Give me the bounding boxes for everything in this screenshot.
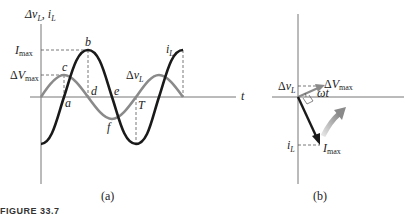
- point-T: T: [138, 98, 146, 112]
- voltage-curve-label: ΔvL: [126, 68, 144, 84]
- y-axis-label: ΔvL, iL: [24, 7, 56, 23]
- rotation-direction-icon: [323, 107, 346, 136]
- t-axis-label: t: [241, 89, 245, 103]
- voltage-projection-label: ΔvL: [278, 79, 296, 95]
- caption-a: (a): [101, 189, 114, 203]
- point-b: b: [85, 35, 91, 49]
- point-f: f: [107, 120, 112, 134]
- point-e: e: [114, 84, 120, 98]
- caption-b: (b): [313, 189, 327, 203]
- current-projection-label: iL: [287, 138, 295, 154]
- point-c: c: [62, 60, 68, 74]
- point-a: a: [65, 96, 71, 110]
- figure-caption: FIGURE 33.7: [0, 206, 60, 214]
- current-phasor-label: Imax: [322, 141, 341, 156]
- current-curve-label: iL: [166, 42, 174, 58]
- panel-b-axes: [272, 14, 404, 184]
- current-phasor: [298, 97, 320, 145]
- i-max-level-label: Imax: [14, 43, 33, 58]
- right-angle-marker: [303, 95, 313, 104]
- point-d: d: [91, 84, 98, 98]
- dv-max-level-label: ΔVmax: [10, 68, 39, 83]
- angle-label: ωt: [317, 86, 329, 100]
- figure-svg: ΔvL, iL t Imax ΔVmax b c a d e f T ΔvL i…: [0, 0, 409, 214]
